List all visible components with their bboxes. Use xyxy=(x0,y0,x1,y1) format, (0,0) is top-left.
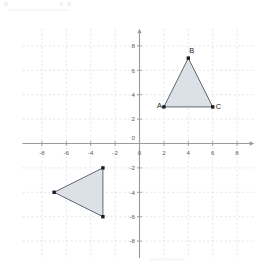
y-tick-label: 8 xyxy=(132,42,136,49)
x-tick-label: 0 xyxy=(138,149,142,156)
triangle-abc xyxy=(164,58,213,107)
x-tick-label: -6 xyxy=(64,149,70,156)
vertex-point xyxy=(101,215,104,218)
x-tick-label: 4 xyxy=(187,149,191,156)
triangle-image xyxy=(54,168,103,217)
x-axis-arrow-icon xyxy=(250,141,255,145)
y-tick-label: -6 xyxy=(129,213,135,220)
y-tick-label: 2 xyxy=(132,115,136,122)
scan-artifact xyxy=(8,9,70,11)
y-axis-arrow-icon xyxy=(137,29,141,34)
scan-artifact xyxy=(4,2,8,6)
x-tick-label: 8 xyxy=(235,149,239,156)
vertex-point xyxy=(101,166,104,169)
scan-artifact xyxy=(60,2,63,6)
y-tick-label: 6 xyxy=(132,67,136,74)
x-tick-label: 6 xyxy=(211,149,215,156)
coordinate-grid-svg: -8-6-4-202468-8-6-4-224680 ABC xyxy=(0,0,274,272)
vertex-point xyxy=(162,105,165,108)
x-tick-label: -2 xyxy=(112,149,118,156)
axes xyxy=(22,29,254,258)
vertex-point xyxy=(52,191,55,194)
vertex-point xyxy=(187,56,190,59)
vertex-label-a: A xyxy=(157,101,162,110)
coordinate-plane-figure: -8-6-4-202468-8-6-4-224680 ABC xyxy=(0,0,274,272)
y-tick-label: -2 xyxy=(129,164,135,171)
origin-label: 0 xyxy=(132,134,136,141)
y-tick-label: -8 xyxy=(129,237,135,244)
y-tick-label: 4 xyxy=(132,91,136,98)
y-tick-label: -4 xyxy=(129,189,135,196)
x-tick-label: -4 xyxy=(88,149,94,156)
vertex-label-c: C xyxy=(216,102,222,111)
vertex-label-b: B xyxy=(189,46,194,55)
scan-artifact xyxy=(67,2,71,6)
x-tick-label: 2 xyxy=(162,149,166,156)
x-tick-label: -8 xyxy=(39,149,45,156)
vertex-point xyxy=(211,105,214,108)
scan-artifact xyxy=(150,258,184,261)
